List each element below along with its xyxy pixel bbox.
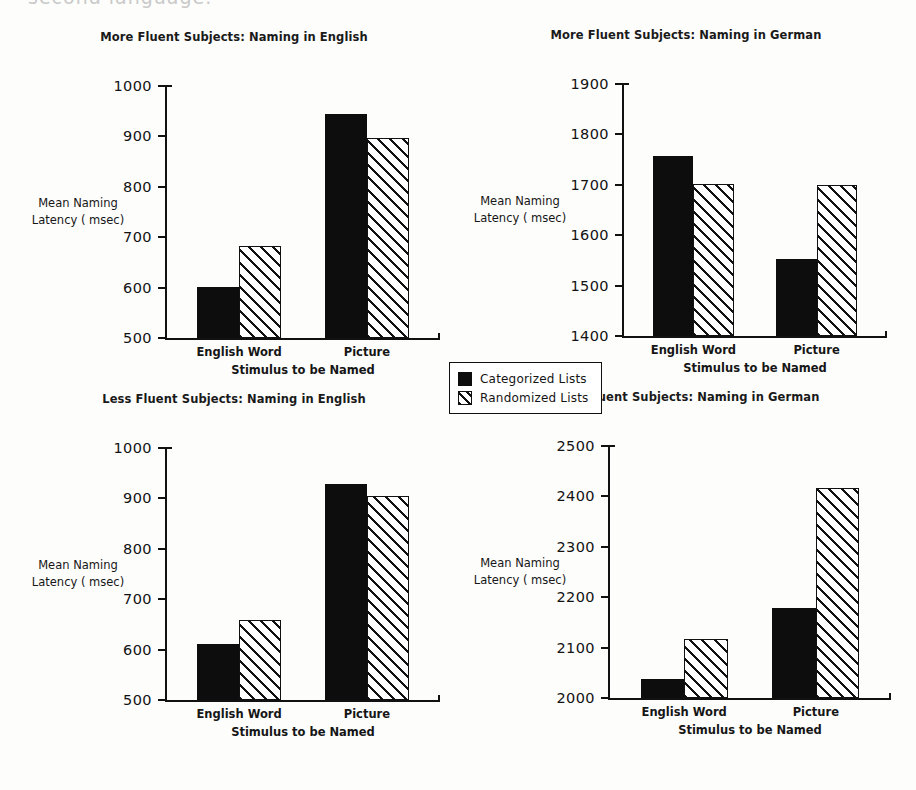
y-axis-label: Mean Naming Latency ( msec) (455, 193, 585, 226)
y-axis-tick-label: 900 (123, 491, 152, 506)
y-axis-tick: 1500 (615, 285, 624, 287)
panel-title: More Fluent Subjects: Naming in English (8, 30, 460, 44)
y-axis-tick: 600 (158, 649, 167, 651)
y-axis-label-line1: Mean Naming (18, 557, 138, 574)
y-axis-label-line2: Latency ( msec) (18, 574, 138, 591)
panel-less-fluent-german: Less Fluent Subjects: Naming in German M… (460, 390, 912, 745)
plot-area: 5006007008009001000English WordPictureSt… (165, 448, 439, 702)
y-axis-tick: 2400 (601, 495, 610, 497)
x-axis-tick-label: English Word (642, 705, 727, 719)
bar-more-fluent-english-1-1 (367, 138, 409, 338)
panel-less-fluent-english: Less Fluent Subjects: Naming in English … (8, 392, 460, 747)
y-axis-tick: 2500 (601, 445, 610, 447)
bar-less-fluent-german-1-0 (772, 608, 815, 698)
y-axis-tick-label: 2200 (556, 590, 595, 605)
x-axis-label: Stimulus to be Named (683, 361, 827, 375)
y-axis-tick: 1000 (158, 85, 167, 87)
y-axis-tick-label: 1500 (570, 278, 609, 293)
y-axis-tick: 2200 (601, 596, 610, 598)
panel-more-fluent-english: More Fluent Subjects: Naming in English … (8, 30, 460, 385)
legend-swatch-hatched-icon (458, 391, 472, 405)
y-axis-label-line1: Mean Naming (18, 195, 138, 212)
x-axis-end-tick (438, 333, 440, 340)
y-axis-tick-label: 1400 (570, 329, 609, 344)
bar-more-fluent-german-0-0 (653, 156, 694, 336)
y-axis-tick-label: 500 (123, 693, 152, 708)
y-axis-tick: 1400 (615, 335, 624, 337)
y-axis-tick: 700 (158, 598, 167, 600)
legend: Categorized Lists Randomized Lists (449, 362, 602, 414)
y-axis-tick-label: 900 (123, 129, 152, 144)
y-axis-tick: 800 (158, 186, 167, 188)
bar-less-fluent-english-0-0 (197, 644, 239, 700)
x-axis-label: Stimulus to be Named (231, 363, 375, 377)
y-axis-tick: 800 (158, 548, 167, 550)
y-axis-tick-label: 700 (123, 592, 152, 607)
panel-more-fluent-german: More Fluent Subjects: Naming in German M… (460, 28, 912, 383)
y-axis-tick-label: 1700 (570, 178, 609, 193)
x-axis-label: Stimulus to be Named (231, 725, 375, 739)
plot-area: 140015001600170018001900English WordPict… (622, 84, 886, 338)
y-axis-tick: 900 (158, 135, 167, 137)
panel-title: Less Fluent Subjects: Naming in English (8, 392, 460, 406)
y-axis-tick-label: 600 (123, 642, 152, 657)
y-axis-label-line2: Latency ( msec) (455, 572, 585, 589)
bar-less-fluent-german-1-1 (816, 488, 859, 698)
bar-more-fluent-english-1-0 (325, 114, 367, 338)
y-axis-tick-label: 800 (123, 542, 152, 557)
bar-more-fluent-german-1-1 (817, 185, 858, 336)
y-axis-tick-label: 2100 (556, 640, 595, 655)
y-axis-label-line2: Latency ( msec) (18, 212, 138, 229)
y-axis-tick-label: 2400 (556, 489, 595, 504)
y-axis-tick-label: 1600 (570, 228, 609, 243)
bar-less-fluent-german-0-1 (684, 639, 727, 698)
legend-item-randomized: Randomized Lists (458, 388, 589, 407)
y-axis-tick-label: 1800 (570, 127, 609, 142)
bar-less-fluent-german-0-0 (641, 679, 684, 698)
y-axis-tick-label: 1900 (570, 77, 609, 92)
y-axis-tick: 2000 (601, 697, 610, 699)
x-axis-tick-label: Picture (793, 343, 839, 357)
figure-four-panel-bar-charts: More Fluent Subjects: Naming in English … (0, 0, 916, 790)
legend-swatch-solid-icon (458, 372, 472, 386)
x-axis-end-tick (438, 695, 440, 702)
legend-item-categorized: Categorized Lists (458, 369, 589, 388)
bar-more-fluent-english-0-0 (197, 287, 239, 338)
y-axis-label: Mean Naming Latency ( msec) (18, 195, 138, 228)
x-axis-tick-label: English Word (651, 343, 736, 357)
y-axis-tick-label: 1000 (113, 79, 152, 94)
y-axis-label-line2: Latency ( msec) (455, 210, 585, 227)
legend-label: Randomized Lists (480, 391, 589, 405)
x-axis-tick-label: English Word (196, 707, 281, 721)
bar-less-fluent-english-1-0 (325, 484, 367, 700)
y-axis-tick: 900 (158, 497, 167, 499)
y-axis-tick-label: 500 (123, 331, 152, 346)
y-axis-tick: 1600 (615, 234, 624, 236)
y-axis-tick: 1800 (615, 133, 624, 135)
y-axis-label: Mean Naming Latency ( msec) (455, 555, 585, 588)
y-axis-tick: 600 (158, 287, 167, 289)
x-axis-end-tick (889, 693, 891, 700)
x-axis-tick-label: English Word (196, 345, 281, 359)
y-axis-tick: 2100 (601, 647, 610, 649)
y-axis-tick-label: 2300 (556, 540, 595, 555)
y-axis-tick: 1900 (615, 83, 624, 85)
plot-area: 200021002200230024002500English WordPict… (608, 446, 890, 700)
panel-title: More Fluent Subjects: Naming in German (460, 28, 912, 42)
y-axis-tick-label: 700 (123, 230, 152, 245)
bar-more-fluent-english-0-1 (239, 246, 281, 338)
x-axis-tick-label: Picture (344, 707, 390, 721)
y-axis-label-line1: Mean Naming (455, 193, 585, 210)
x-axis-label: Stimulus to be Named (678, 723, 822, 737)
y-axis-tick-label: 2500 (556, 439, 595, 454)
y-axis-tick: 500 (158, 337, 167, 339)
x-axis-end-tick (885, 331, 887, 338)
y-axis-tick: 700 (158, 236, 167, 238)
y-axis-tick-label: 1000 (113, 441, 152, 456)
bar-more-fluent-german-1-0 (776, 259, 817, 336)
legend-label: Categorized Lists (480, 372, 587, 386)
y-axis-tick: 500 (158, 699, 167, 701)
y-axis-label: Mean Naming Latency ( msec) (18, 557, 138, 590)
y-axis-tick-label: 800 (123, 180, 152, 195)
bar-less-fluent-english-1-1 (367, 496, 409, 700)
